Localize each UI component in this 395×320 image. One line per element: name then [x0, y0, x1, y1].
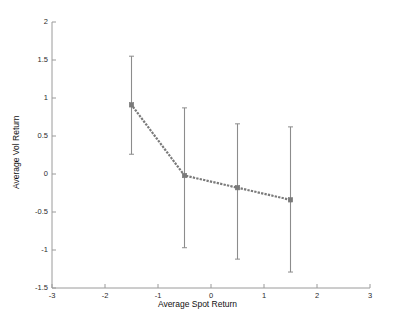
- series-dotted-line: [132, 105, 291, 200]
- y-tick-label: -1.5: [12, 284, 48, 292]
- chart-plot-area: [0, 0, 395, 320]
- x-tick-label: -2: [90, 292, 120, 300]
- y-tick-label: 1.5: [12, 56, 48, 64]
- chart-figure: 21.510.50-0.5-1-1.5 -3-2-10123 Average S…: [0, 0, 395, 320]
- x-tick-label: -3: [37, 292, 67, 300]
- axis-lines: [52, 22, 370, 288]
- y-axis-title: Average Vol Return: [12, 92, 21, 212]
- x-axis-title: Average Spot Return: [0, 300, 395, 309]
- tick-marks: [52, 22, 370, 288]
- x-tick-label: 2: [302, 292, 332, 300]
- error-bars: [129, 56, 293, 272]
- x-tick-label: 3: [355, 292, 385, 300]
- x-tick-label: 1: [249, 292, 279, 300]
- y-tick-label: -1: [12, 246, 48, 254]
- series-markers: [129, 103, 292, 202]
- y-tick-label: 2: [12, 18, 48, 26]
